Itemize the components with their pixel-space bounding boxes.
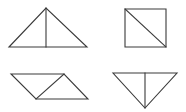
figure-isosceles-triangle-with-vertical-median — [9, 8, 87, 47]
figures-canvas — [0, 0, 186, 112]
diagonal-top-right-to-bottom-left-line — [36, 74, 64, 99]
figure-parallelogram-with-diagonal — [11, 74, 88, 99]
triangle-outline — [9, 8, 87, 47]
figure-square-with-diagonal — [125, 9, 166, 47]
figure-inverted-triangle-with-vertical-median — [113, 73, 177, 108]
figure-sheet — [0, 0, 186, 112]
diagonal-top-left-to-bottom-right-line — [125, 9, 166, 47]
